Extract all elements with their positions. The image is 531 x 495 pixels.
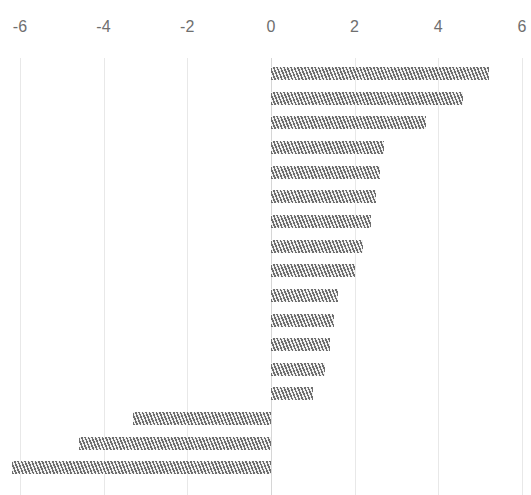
- x-axis-tick-label: 6: [517, 18, 526, 36]
- bar: [271, 240, 363, 253]
- bar: [271, 166, 380, 179]
- x-axis-tick-label: -2: [180, 18, 195, 36]
- bar: [12, 461, 271, 474]
- bar: [271, 338, 330, 351]
- bar: [271, 289, 338, 302]
- bar: [79, 437, 271, 450]
- bar: [271, 215, 371, 228]
- bar: [271, 141, 384, 154]
- bar: [271, 387, 313, 400]
- x-axis-tick-label: 2: [350, 18, 359, 36]
- x-axis-tick-label: -4: [96, 18, 111, 36]
- bars-layer: [0, 58, 531, 495]
- bar: [271, 92, 463, 105]
- bar: [271, 116, 426, 129]
- plot-area: [0, 58, 531, 495]
- x-axis-tick-label-row: -6-4-20246: [0, 0, 531, 58]
- bar: [271, 264, 355, 277]
- x-axis-tick-label: 0: [266, 18, 275, 36]
- horizontal-bar-chart: -6-4-20246: [0, 0, 531, 495]
- bar: [271, 363, 325, 376]
- x-axis-tick-label: 4: [434, 18, 443, 36]
- bar: [271, 314, 334, 327]
- bar: [271, 67, 489, 80]
- bar: [271, 190, 376, 203]
- x-axis-tick-label: -6: [13, 18, 28, 36]
- bar: [133, 412, 271, 425]
